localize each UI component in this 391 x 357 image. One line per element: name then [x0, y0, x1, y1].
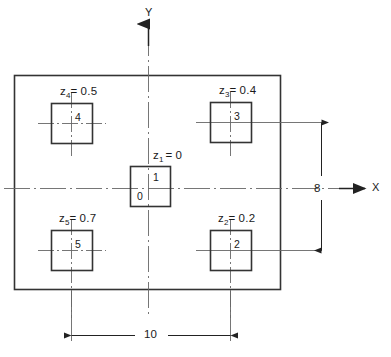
panel-4-cell-number: 4 — [75, 112, 81, 123]
panel-4-group — [38, 92, 106, 156]
panel-3-cell-number: 3 — [234, 111, 240, 122]
panel-2-cell-number: 2 — [234, 239, 240, 250]
panel-5-z-equals: = — [70, 212, 77, 224]
technical-diagram: Y X z4=0.5 z3=0.4 z1=0 z5=0.7 z2=0.2 4 3… — [0, 0, 391, 357]
panel-4-z-equals: = — [71, 85, 78, 97]
panel-1-z-equals: = — [166, 149, 173, 161]
y-axis-label: Y — [145, 7, 152, 18]
panel-2-z-label: z2=0.2 — [218, 213, 255, 227]
dimension-8-label: 8 — [314, 183, 320, 195]
panel-2-group — [196, 219, 322, 318]
panel-2-z-value: 0.2 — [239, 212, 256, 224]
panel-5-group — [38, 219, 106, 318]
panel-5-cell-number: 5 — [75, 239, 81, 250]
panel-1-z-subscript: 1 — [159, 155, 163, 164]
panel-4-z-value: 0.5 — [81, 85, 98, 97]
panel-5-z-label: z5=0.7 — [59, 213, 96, 227]
x-axis-label: X — [372, 182, 379, 193]
panel-3-z-value: 0.4 — [240, 84, 257, 96]
panel-1-z-label: z1=0 — [153, 150, 182, 164]
panel-3-z-label: z3=0.4 — [219, 85, 256, 99]
panel-1-cell-number-secondary: 0 — [137, 191, 143, 202]
panel-5-z-value: 0.7 — [80, 212, 97, 224]
diagram-canvas — [0, 0, 391, 357]
panel-3-z-equals: = — [230, 84, 237, 96]
plate-outline — [15, 76, 281, 290]
panel-1-cell-number: 1 — [153, 172, 159, 183]
panel-4-z-label: z4=0.5 — [60, 86, 97, 100]
dimension-10-label: 10 — [144, 329, 157, 341]
panel-3-group — [196, 92, 322, 156]
panel-1-z-value: 0 — [176, 149, 183, 161]
panel-2-z-equals: = — [229, 212, 236, 224]
